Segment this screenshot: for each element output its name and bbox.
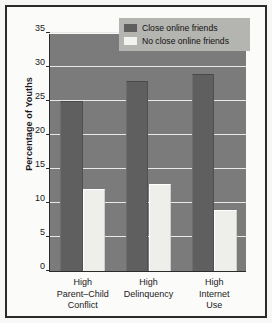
y-tick-mark [46, 168, 50, 169]
plot-area: 05101520253035 HighParent–ChildConflictH… [49, 34, 246, 272]
y-tick-mark [46, 100, 50, 101]
figure-canvas: Percentage of Youths 05101520253035 High… [0, 0, 272, 323]
chart-legend: Close online friends No close online fri… [119, 18, 250, 51]
legend-label: No close online friends [142, 36, 229, 46]
y-tick-mark [46, 134, 50, 135]
x-category-label: HighParent–ChildConflict [57, 277, 109, 312]
x-category-label: HighInternetUse [199, 277, 230, 312]
y-tick-label: 5 [40, 227, 45, 237]
gridline [50, 66, 246, 67]
bar [83, 189, 106, 271]
y-tick-mark [46, 66, 50, 67]
y-tick-label: 10 [35, 193, 45, 203]
bar [192, 74, 215, 271]
y-tick-label: 15 [35, 159, 45, 169]
y-tick-mark [46, 32, 50, 33]
legend-label: Close online friends [142, 23, 217, 33]
x-category-label: HighDelinquency [124, 277, 174, 300]
figure-frame: Percentage of Youths 05101520253035 High… [5, 5, 267, 318]
legend-item: No close online friends [124, 34, 246, 47]
bar [149, 184, 172, 271]
bar [60, 101, 83, 271]
y-axis-title: Percentage of Youths [24, 64, 34, 184]
legend-swatch-close-online-friends [124, 24, 137, 32]
y-tick-label: 20 [35, 125, 45, 135]
y-tick-mark [46, 202, 50, 203]
legend-swatch-no-close-online-friends [124, 37, 137, 45]
y-tick-label: 25 [35, 91, 45, 101]
bar [214, 210, 237, 271]
legend-item: Close online friends [124, 21, 246, 34]
y-tick-mark [46, 270, 50, 271]
y-tick-label: 30 [35, 57, 45, 67]
y-tick-label: 0 [40, 261, 45, 271]
bar [126, 81, 149, 271]
y-tick-label: 35 [35, 23, 45, 33]
y-tick-mark [46, 236, 50, 237]
